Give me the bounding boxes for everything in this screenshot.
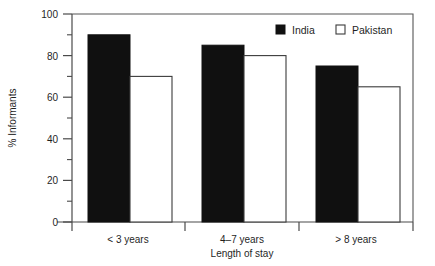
- y-tick-label-80: 80: [47, 51, 59, 62]
- legend-item-india: India: [276, 24, 315, 36]
- x-axis-title: Length of stay: [211, 248, 274, 259]
- legend-label-india: India: [292, 24, 315, 36]
- bar-pakistan-gt8: [358, 87, 400, 222]
- legend: India Pakistan: [276, 24, 392, 36]
- y-axis-minor-ticks: [67, 35, 72, 201]
- y-tick-label-0: 0: [52, 217, 58, 228]
- bar-india-gt8: [316, 66, 358, 222]
- y-tick-label-100: 100: [41, 9, 58, 20]
- bar-pakistan-4to7: [244, 56, 286, 222]
- legend-swatch-india: [276, 25, 285, 34]
- y-tick-label-20: 20: [47, 175, 59, 186]
- bar-chart: 0 20 40 60 80 100 % Informants < 3 years…: [0, 0, 435, 266]
- y-tick-label-60: 60: [47, 92, 59, 103]
- legend-item-pakistan: Pakistan: [336, 24, 392, 36]
- x-category-label-0: < 3 years: [107, 234, 148, 245]
- chart-svg: 0 20 40 60 80 100 % Informants < 3 years…: [0, 0, 435, 266]
- x-axis-category-ticks: [72, 222, 413, 231]
- legend-label-pakistan: Pakistan: [352, 24, 392, 36]
- bar-india-lt3: [88, 35, 130, 222]
- y-axis-title: % Informants: [7, 89, 18, 148]
- bar-pakistan-lt3: [130, 76, 172, 222]
- x-category-label-1: 4–7 years: [220, 234, 264, 245]
- y-tick-label-40: 40: [47, 134, 59, 145]
- x-category-label-2: > 8 years: [335, 234, 376, 245]
- legend-swatch-pakistan: [336, 25, 345, 34]
- bar-india-4to7: [202, 45, 244, 222]
